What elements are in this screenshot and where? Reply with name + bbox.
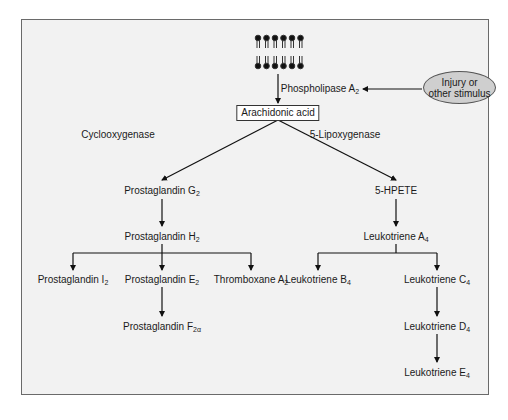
leukotriene-c4: Leukotriene C4 [404,274,470,286]
5-hpete: 5-HPETE [375,185,417,197]
stimulus-line2: other stimulus [424,88,495,99]
leukotriene-d4: Leukotriene D4 [404,321,470,333]
thromboxane-a2: Thromboxane A2 [214,274,289,286]
phospholipid-bilayer-icon [255,35,303,69]
cyclooxygenase-label: Cyclooxygenase [81,129,154,141]
stimulus-line1: Injury or [424,77,495,88]
pathway-arrows [0,0,508,420]
prostaglandin-h2: Prostaglandin H2 [124,231,199,243]
lipoxygenase-label: 5-Lipoxygenase [310,129,381,141]
prostaglandin-e2: Prostaglandin E2 [125,274,200,286]
phospholipase-label: Phospholipase A2 [281,83,359,95]
leukotriene-e4: Leukotriene E4 [404,367,470,379]
prostaglandin-f2a: Prostaglandin F2α [123,321,201,333]
prostaglandin-i2: Prostaglandin I2 [38,274,109,286]
prostaglandin-g2: Prostaglandin G2 [124,185,200,197]
leukotriene-a4: Leukotriene A4 [363,231,428,243]
arachidonic-acid-box: Arachidonic acid [236,105,319,121]
leukotriene-b4: Leukotriene B4 [285,274,351,286]
stimulus-ellipse: Injury or other stimulus [423,71,496,104]
